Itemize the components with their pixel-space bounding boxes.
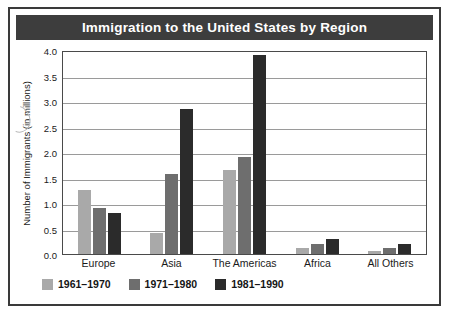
legend-label: 1961–1970 <box>58 278 111 290</box>
legend-item: 1981–1990 <box>215 278 284 290</box>
legend-item: 1961–1970 <box>42 278 111 290</box>
bar-group <box>281 52 354 254</box>
bar-group <box>353 52 426 254</box>
bar <box>165 174 178 254</box>
x-axis-label: All Others <box>354 257 427 273</box>
legend-item: 1971–1980 <box>129 278 198 290</box>
chart-legend: 1961–19701971–19801981–1990 <box>42 278 284 290</box>
chart-title-bar: Immigration to the United States by Regi… <box>16 15 433 40</box>
legend-swatch <box>215 279 226 290</box>
bar <box>296 248 309 254</box>
legend-label: 1971–1980 <box>145 278 198 290</box>
legend-swatch <box>129 279 140 290</box>
bars-layer <box>63 52 426 254</box>
y-axis-title-text: Number of Immigrants (in millions) <box>21 81 32 226</box>
x-axis-label: Europe <box>62 257 135 273</box>
bar <box>150 233 163 254</box>
x-axis-label: Asia <box>135 257 208 273</box>
chart-title: Immigration to the United States by Regi… <box>82 20 367 35</box>
bar-group <box>208 52 281 254</box>
y-axis-tick-label: 0.0 <box>44 250 57 261</box>
bar <box>383 248 396 254</box>
y-axis-tick-label: 3.0 <box>44 97 57 108</box>
plot-area <box>62 51 427 255</box>
y-axis-tick-label: 1.5 <box>44 173 57 184</box>
bar <box>180 109 193 254</box>
x-axis-labels: EuropeAsiaThe AmericasAfricaAll Others <box>62 257 427 273</box>
bar <box>326 239 339 254</box>
chart-figure: Immigration to the United States by Regi… <box>8 7 441 306</box>
bar <box>108 213 121 254</box>
y-axis-tick-label: 0.5 <box>44 224 57 235</box>
plot-wrapper: Number of Immigrants (in millions) 0.00.… <box>16 45 433 298</box>
y-axis-title: Number of Immigrants (in millions) <box>18 45 34 261</box>
legend-label: 1981–1990 <box>231 278 284 290</box>
bar <box>398 244 411 254</box>
y-axis-tick-label: 4.0 <box>44 46 57 57</box>
x-axis-label: The Americas <box>208 257 281 273</box>
bar <box>223 170 236 254</box>
bar <box>368 251 381 254</box>
bar-group <box>63 52 136 254</box>
bar <box>78 190 91 254</box>
y-axis-ticks: 0.00.51.01.52.02.53.03.54.0 <box>34 45 60 261</box>
legend-swatch <box>42 279 53 290</box>
bar-group <box>136 52 209 254</box>
bar <box>238 157 251 254</box>
y-axis-tick-label: 2.5 <box>44 122 57 133</box>
x-axis-label: Africa <box>281 257 354 273</box>
y-axis-tick-label: 2.0 <box>44 148 57 159</box>
bar <box>311 244 324 254</box>
bar <box>253 55 266 254</box>
y-axis-tick-label: 1.0 <box>44 199 57 210</box>
y-axis-tick-label: 3.5 <box>44 71 57 82</box>
bar <box>93 208 106 254</box>
